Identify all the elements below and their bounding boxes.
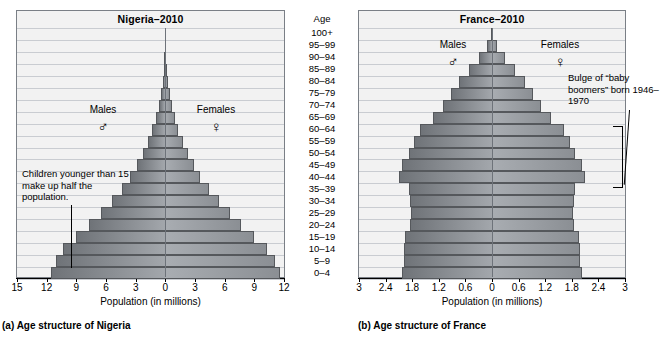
age-group-label: 45–49 <box>287 159 357 170</box>
panel-france: France–2010 <box>358 10 626 278</box>
pyramid-row <box>17 28 284 40</box>
bar-male <box>479 52 492 64</box>
bar-male <box>159 100 166 112</box>
pyramid-row <box>17 76 284 88</box>
bar-female <box>165 171 200 183</box>
x-axis-tick-label: 1.2 <box>426 282 452 293</box>
bar-male <box>410 195 492 207</box>
bar-female <box>492 207 573 219</box>
x-axis-tick-label: 12 <box>34 282 60 293</box>
bar-male <box>433 112 492 124</box>
plot-area-nigeria <box>17 28 284 277</box>
age-group-label: 5–9 <box>287 255 357 266</box>
bar-male <box>137 159 165 171</box>
bar-male <box>148 136 165 148</box>
annotation-leader-line-nigeria <box>71 205 72 268</box>
bar-female <box>165 183 209 195</box>
bar-male <box>152 124 165 136</box>
bar-male <box>409 183 492 195</box>
males-label-france: Males <box>423 39 483 50</box>
bar-male <box>143 148 165 160</box>
panel-nigeria: Nigeria–2010 <box>16 10 285 278</box>
pyramid-row <box>17 243 284 255</box>
age-group-label: 15–19 <box>287 231 357 242</box>
pyramid-row <box>17 148 284 160</box>
age-group-label: 65–69 <box>287 111 357 122</box>
x-axis-title-france: Population (in millions) <box>358 296 626 307</box>
x-axis-tick-label: 3 <box>123 282 149 293</box>
bar-male <box>56 255 166 267</box>
x-axis-tick-label: 2.4 <box>373 282 399 293</box>
bar-male <box>402 267 492 279</box>
bar-female <box>165 255 275 267</box>
pyramid-row <box>17 207 284 219</box>
age-group-label: 20–24 <box>287 219 357 230</box>
bar-male <box>51 267 166 279</box>
x-axis-tick-label: 9 <box>63 282 89 293</box>
pyramid-row <box>17 88 284 100</box>
plot-area-france <box>359 28 625 277</box>
bar-female <box>165 207 229 219</box>
pyramid-row <box>17 231 284 243</box>
age-group-label: 0–4 <box>287 267 357 278</box>
x-axis-nigeria: 1512963036912 <box>16 278 285 296</box>
age-group-label: 80–84 <box>287 75 357 86</box>
male-symbol-icon-france: ♂ <box>433 54 473 69</box>
bar-male <box>404 243 492 255</box>
center-axis-france <box>492 28 493 277</box>
bar-male <box>420 124 492 136</box>
age-group-label: 70–74 <box>287 99 357 110</box>
age-group-label: 50–54 <box>287 147 357 158</box>
bar-male <box>451 88 492 100</box>
x-axis-tick-label: 15 <box>4 282 30 293</box>
bar-female <box>165 231 254 243</box>
bar-female <box>165 159 193 171</box>
bar-female <box>492 159 582 171</box>
pyramid-row <box>17 255 284 267</box>
bar-male <box>459 76 492 88</box>
bar-female <box>492 183 575 195</box>
age-group-label: 75–79 <box>287 87 357 98</box>
x-axis-tick-label: 1.2 <box>532 282 558 293</box>
age-group-label: 25–29 <box>287 207 357 218</box>
bar-female <box>492 112 551 124</box>
age-group-label: 90–94 <box>287 51 357 62</box>
x-axis-tick-label: 1.8 <box>399 282 425 293</box>
age-group-label: 35–39 <box>287 183 357 194</box>
bar-female <box>492 267 582 279</box>
x-axis-tick-label: 0 <box>152 282 178 293</box>
bar-male <box>404 255 492 267</box>
age-group-label: 85–89 <box>287 63 357 74</box>
x-axis-tick-label: 2.4 <box>585 282 611 293</box>
x-axis-tick-label: 0.6 <box>506 282 532 293</box>
bar-male <box>402 159 492 171</box>
bar-male <box>411 207 492 219</box>
x-axis-tick-label: 0.6 <box>452 282 478 293</box>
age-group-label: 100+ <box>287 27 357 38</box>
bar-female <box>165 100 172 112</box>
bar-female <box>165 148 187 160</box>
bar-female <box>492 52 505 64</box>
female-symbol-icon-nigeria: ♀ <box>196 119 236 134</box>
x-axis-tick-label: 3 <box>182 282 208 293</box>
bar-male <box>409 148 492 160</box>
bar-female <box>492 100 541 112</box>
x-axis-france: 32.41.81.20.600.61.21.82.43 <box>358 278 626 296</box>
bar-female <box>165 195 218 207</box>
female-symbol-icon-france: ♀ <box>540 54 580 69</box>
males-label-nigeria: Males <box>73 104 133 115</box>
caption-nigeria: (a) Age structure of Nigeria <box>2 320 131 331</box>
pyramid-row <box>17 40 284 52</box>
bar-male <box>156 112 165 124</box>
females-label-france: Females <box>530 39 590 50</box>
panel-title-nigeria: Nigeria–2010 <box>17 13 284 25</box>
age-group-label: 40–44 <box>287 171 357 182</box>
panel-title-france: France–2010 <box>359 13 625 25</box>
bar-male <box>410 219 492 231</box>
bar-female <box>492 255 580 267</box>
x-axis-tick-label: 12 <box>271 282 297 293</box>
bar-female <box>492 195 574 207</box>
bar-male <box>414 136 492 148</box>
pyramid-row <box>17 52 284 64</box>
bar-female <box>492 124 564 136</box>
